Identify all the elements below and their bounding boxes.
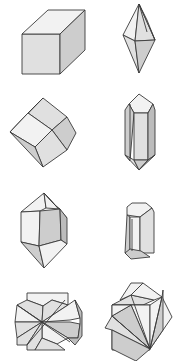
crystal-face <box>21 193 46 212</box>
crystal-forms-figure <box>0 0 181 361</box>
crystal-quartz-prism <box>125 94 155 170</box>
crystal-twinned-cube-penetration <box>15 293 82 350</box>
crystal-face <box>22 34 60 74</box>
crystal-face <box>60 209 67 244</box>
crystal-cube <box>22 10 85 74</box>
crystal-face <box>135 4 155 41</box>
crystal-short-prism <box>125 203 154 259</box>
crystal-twinned-cube-interpenetration <box>105 283 172 361</box>
crystal-face <box>134 113 148 160</box>
crystal-face <box>21 211 40 246</box>
crystal-rhombic-dodecahedron <box>10 98 76 167</box>
crystal-hexagonal-bipyramid <box>123 4 155 73</box>
crystal-face <box>148 104 155 160</box>
crystal-quartz-doubly-terminated <box>21 193 67 268</box>
crystal-face <box>135 40 155 73</box>
crystal-diagram <box>0 0 181 361</box>
crystal-face <box>125 104 134 161</box>
